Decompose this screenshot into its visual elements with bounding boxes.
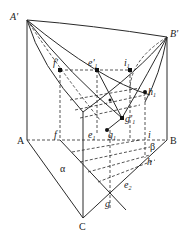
point-mid xyxy=(109,99,112,102)
label-h1: h1 xyxy=(148,86,156,98)
prism-diagram: A' B' f' e'1 i1 h1 g'1 e1 g1 f i β h α A… xyxy=(0,0,193,244)
hatch-6 xyxy=(88,155,150,172)
hatch-4 xyxy=(72,140,140,152)
curve-A-g1p xyxy=(27,20,122,118)
curve-dashed-B xyxy=(130,37,167,90)
point-g1-prime xyxy=(120,116,124,120)
label-alpha: α xyxy=(60,163,66,174)
curve-top-outer xyxy=(27,20,167,37)
label-C: C xyxy=(79,221,86,232)
label-A-prime: A' xyxy=(9,11,19,22)
curve-B-C xyxy=(83,37,167,112)
label-e2: e2 xyxy=(124,179,131,191)
label-A: A xyxy=(17,135,25,146)
curve-B-g1p xyxy=(122,37,167,118)
label-g: g xyxy=(105,198,110,209)
label-i1: i1 xyxy=(124,57,130,69)
label-h: h xyxy=(147,156,152,167)
label-beta: β xyxy=(150,141,155,152)
label-e1-prime: e'1 xyxy=(88,57,98,69)
label-e1: e1 xyxy=(88,129,95,141)
label-f: f xyxy=(54,129,58,140)
label-g1-prime: g'1 xyxy=(125,113,135,125)
point-f-prime xyxy=(58,68,62,72)
label-f-prime: f' xyxy=(53,57,59,68)
hatch-5 xyxy=(80,147,150,162)
label-B: B xyxy=(170,135,177,146)
label-g1: g1 xyxy=(108,129,116,141)
point-h1 xyxy=(143,90,147,94)
label-B-prime: B' xyxy=(170,28,179,39)
label-i: i xyxy=(148,129,151,140)
curve-dashed-A xyxy=(27,20,100,120)
